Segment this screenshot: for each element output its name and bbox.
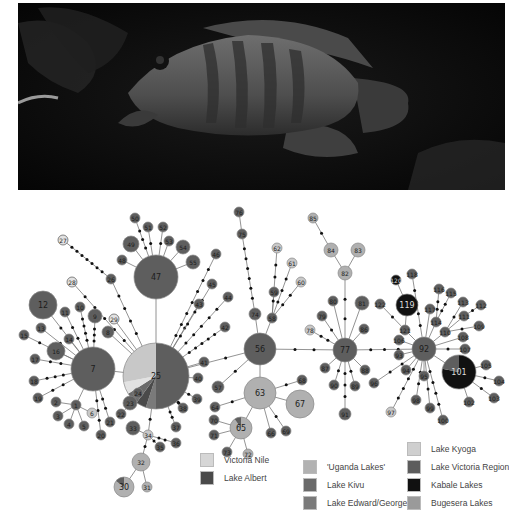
- mutation-step-dot: [164, 438, 167, 441]
- mutation-step-dot: [344, 384, 347, 387]
- node-label: 92: [419, 345, 429, 354]
- mutation-step-dot: [208, 316, 211, 319]
- haplotype-node-76: 76: [234, 207, 244, 217]
- node-label: 94: [402, 367, 410, 374]
- haplotype-node-107: 107: [459, 344, 471, 354]
- node-label: 10: [76, 304, 84, 311]
- node-label: 63: [255, 389, 265, 398]
- mutation-step-dot: [185, 312, 188, 315]
- mutation-step-dot: [70, 246, 73, 249]
- haplotype-node-32: 32: [132, 453, 150, 471]
- mutation-step-dot: [101, 270, 104, 273]
- node-label: 65: [236, 424, 246, 433]
- haplotype-node-36: 36: [171, 438, 181, 448]
- node-label: 54: [179, 244, 187, 251]
- haplotype-node-68: 68: [297, 375, 307, 385]
- mutation-step-dot: [179, 334, 182, 337]
- haplotype-node-64: 64: [210, 402, 220, 412]
- haplotype-node-54: 54: [176, 240, 190, 254]
- haplotype-node-58: 58: [267, 313, 277, 323]
- mutation-step-dot: [243, 247, 246, 250]
- haplotype-node-116: 116: [433, 284, 445, 294]
- haplotype-node-19: 19: [33, 393, 43, 403]
- haplotype-node-86: 86: [359, 324, 369, 334]
- mutation-step-dot: [407, 377, 410, 380]
- node-label: 57: [214, 384, 222, 391]
- node-label: 105: [480, 362, 492, 369]
- mutation-step-dot: [62, 383, 65, 386]
- node-label: 42: [221, 324, 229, 331]
- haplotype-node-44: 44: [223, 292, 233, 302]
- node-label: 122: [374, 301, 386, 308]
- mutation-step-dot: [437, 403, 440, 406]
- node-label: 51: [144, 224, 152, 231]
- mutation-step-dot: [149, 418, 152, 421]
- node-label: 77: [340, 346, 350, 355]
- haplotype-node-3: 3: [53, 411, 63, 421]
- mutation-step-dot: [95, 399, 98, 402]
- haplotype-node-23: 23: [123, 396, 137, 410]
- node-label: 50: [131, 215, 139, 222]
- node-label: 71: [210, 432, 218, 439]
- node-label: 82: [341, 270, 349, 277]
- node-label: 74: [251, 311, 259, 318]
- mutation-step-dot: [413, 289, 416, 292]
- haplotype-node-75: 75: [237, 229, 247, 239]
- haplotype-node-49: 49: [123, 236, 139, 252]
- haplotype-node-90: 90: [329, 380, 339, 390]
- haplotype-node-6: 6: [87, 408, 97, 418]
- haplotype-node-83: 83: [351, 243, 365, 257]
- haplotype-node-18: 18: [29, 376, 39, 386]
- haplotype-node-71: 71: [209, 430, 219, 440]
- mutation-step-dot: [200, 325, 203, 328]
- haplotype-node-66: 66: [266, 428, 276, 438]
- node-label: 119: [399, 301, 414, 310]
- haplotype-node-94: 94: [401, 365, 411, 375]
- node-label: 21: [106, 419, 114, 426]
- node-label: 68: [298, 377, 306, 384]
- mutation-step-dot: [471, 309, 474, 312]
- haplotype-node-40: 40: [193, 373, 203, 383]
- haplotype-node-88: 88: [360, 365, 370, 375]
- mutation-step-dot: [275, 415, 278, 418]
- mutation-step-dot: [248, 277, 251, 280]
- mutation-step-dot: [169, 410, 172, 413]
- mutation-step-dot: [444, 303, 447, 306]
- mutation-step-dot: [320, 232, 323, 235]
- node-label: 25: [151, 372, 161, 381]
- haplotype-node-53: 53: [164, 236, 174, 246]
- haplotype-node-34: 34: [143, 430, 153, 440]
- mutation-step-dot: [71, 326, 74, 329]
- haplotype-node-30: 30: [114, 477, 134, 497]
- mutation-step-dot: [207, 268, 210, 271]
- node-label: 80: [329, 298, 337, 305]
- node-label: 7: [90, 365, 95, 374]
- node-label: 22: [117, 411, 125, 418]
- mutation-step-dot: [159, 242, 162, 245]
- mutation-step-dot: [285, 383, 288, 386]
- mutation-step-dot: [91, 262, 94, 265]
- node-label: 67: [295, 400, 305, 409]
- mutation-step-dot: [144, 246, 147, 249]
- mutation-step-dot: [149, 242, 152, 245]
- haplotype-node-78: 78: [305, 325, 315, 335]
- mutation-step-dot: [93, 334, 96, 337]
- node-label: 41: [200, 359, 208, 366]
- haplotype-node-74: 74: [249, 308, 261, 320]
- node-label: 75: [238, 231, 246, 238]
- haplotype-node-52: 52: [158, 222, 168, 232]
- haplotype-node-109: 109: [473, 321, 485, 331]
- mutation-step-dot: [138, 230, 141, 233]
- mutation-step-dot: [188, 351, 191, 354]
- haplotype-node-100: 100: [437, 415, 449, 425]
- node-label: 120: [390, 277, 402, 284]
- node-label: 46: [212, 251, 220, 258]
- haplotype-node-103: 103: [488, 393, 500, 403]
- node-label: 30: [119, 483, 129, 492]
- haplotype-node-92: 92: [412, 337, 436, 361]
- haplotype-node-89: 89: [350, 381, 360, 391]
- mutation-step-dot: [54, 375, 57, 378]
- haplotype-node-81: 81: [355, 296, 369, 310]
- node-label: 39: [193, 396, 201, 403]
- haplotype-node-31: 31: [142, 482, 152, 492]
